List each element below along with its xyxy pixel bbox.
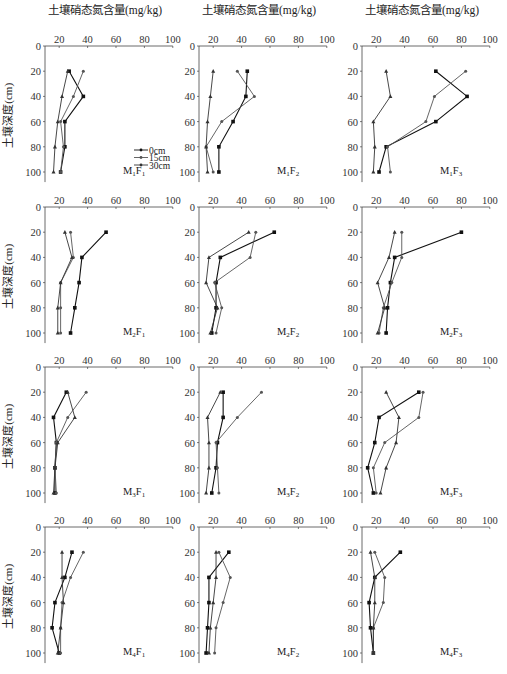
data-point xyxy=(66,416,69,419)
y-tick-label: 0 xyxy=(36,202,41,213)
panel-label: M2F1 xyxy=(123,326,146,339)
data-point xyxy=(85,391,88,394)
y-tick-label: 80 xyxy=(185,303,196,314)
y-tick-label: 100 xyxy=(25,648,41,659)
data-point xyxy=(63,230,67,234)
y-tick-label: 20 xyxy=(31,387,42,398)
data-point xyxy=(217,145,221,149)
y-tick-label: 20 xyxy=(185,547,196,558)
x-tick-label: 20 xyxy=(371,195,382,206)
x-axis-title: 土壤硝态氮含量(mg/kg) xyxy=(202,3,316,17)
data-point xyxy=(59,332,62,335)
data-point xyxy=(254,231,257,234)
panel-label: M3F2 xyxy=(277,486,300,499)
data-point xyxy=(60,94,64,98)
y-tick-label: 0 xyxy=(353,41,358,52)
y-tick-label: 100 xyxy=(179,488,195,499)
data-point xyxy=(211,69,215,73)
x-tick-label: 40 xyxy=(82,355,93,366)
x-tick-label: 100 xyxy=(482,355,498,366)
series-line-0cm xyxy=(212,232,274,333)
data-point xyxy=(373,551,376,554)
data-point xyxy=(104,230,108,234)
y-tick-label: 60 xyxy=(31,438,42,449)
panel-m4f2: 20406080100020406080100M4F2 xyxy=(179,515,334,663)
data-point xyxy=(371,170,375,174)
data-point xyxy=(393,256,397,260)
y-tick-label: 100 xyxy=(25,167,41,178)
data-point xyxy=(50,626,54,630)
panel-label: M3F1 xyxy=(123,486,146,499)
y-tick-label: 80 xyxy=(31,463,42,474)
data-point xyxy=(377,170,381,174)
data-point xyxy=(387,255,391,259)
y-tick-label: 100 xyxy=(25,328,41,339)
y-tick-label: 20 xyxy=(348,66,359,77)
y-tick-label: 100 xyxy=(179,328,195,339)
y-axis-title: 土壤深度(cm) xyxy=(1,244,15,309)
data-point xyxy=(369,550,373,554)
series-line-0cm xyxy=(379,71,467,172)
data-point xyxy=(417,416,420,419)
data-point xyxy=(69,331,73,335)
data-point xyxy=(69,576,72,579)
data-point xyxy=(367,601,371,605)
data-point xyxy=(390,281,393,284)
data-point xyxy=(77,281,81,285)
y-tick-label: 20 xyxy=(31,547,42,558)
data-point xyxy=(53,601,57,605)
data-point xyxy=(231,120,235,124)
data-point xyxy=(215,441,218,444)
x-tick-label: 80 xyxy=(139,195,150,206)
panel-label: M4F3 xyxy=(440,646,463,659)
data-point xyxy=(62,145,65,148)
panel-m1f1: 20406080100020406080100土壤深度(cm)M1F10cm15… xyxy=(1,34,181,182)
data-point xyxy=(272,230,276,234)
data-point xyxy=(59,120,62,123)
data-point xyxy=(229,576,232,579)
x-tick-label: 60 xyxy=(265,195,276,206)
data-point xyxy=(422,391,425,394)
y-tick-label: 40 xyxy=(348,412,359,423)
data-point xyxy=(215,332,218,335)
y-tick-label: 40 xyxy=(31,252,42,263)
data-point xyxy=(399,550,403,554)
data-point xyxy=(260,391,263,394)
x-axis-title: 土壤硝态氮含量(mg/kg) xyxy=(365,3,479,17)
x-tick-label: 80 xyxy=(456,355,467,366)
data-point xyxy=(82,551,85,554)
series-line-15cm xyxy=(61,232,74,333)
y-axis-title: 土壤深度(cm) xyxy=(1,564,15,629)
data-point xyxy=(214,575,218,579)
x-tick-label: 20 xyxy=(54,195,65,206)
data-point xyxy=(382,601,385,604)
x-tick-label: 40 xyxy=(82,34,93,45)
data-point xyxy=(377,416,381,420)
data-point xyxy=(52,416,56,420)
data-point xyxy=(59,171,62,174)
x-tick-label: 60 xyxy=(265,355,276,366)
data-point xyxy=(386,145,389,148)
panel-label: M4F2 xyxy=(277,646,300,659)
y-tick-label: 60 xyxy=(31,117,42,128)
data-point xyxy=(217,551,220,554)
data-point xyxy=(204,491,208,495)
data-point xyxy=(215,626,218,629)
data-point xyxy=(373,441,377,445)
y-tick-label: 40 xyxy=(348,252,359,263)
y-tick-label: 60 xyxy=(185,278,196,289)
x-tick-label: 60 xyxy=(111,34,122,45)
y-tick-label: 100 xyxy=(342,648,358,659)
data-point xyxy=(434,120,438,124)
x-tick-label: 100 xyxy=(319,34,335,45)
x-tick-label: 40 xyxy=(236,195,247,206)
data-point xyxy=(245,69,249,73)
x-tick-label: 40 xyxy=(82,195,93,206)
y-tick-label: 100 xyxy=(25,488,41,499)
x-tick-label: 80 xyxy=(293,515,304,526)
x-tick-label: 60 xyxy=(428,355,439,366)
panel-label: M1F2 xyxy=(277,165,300,178)
data-point xyxy=(244,95,248,99)
data-point xyxy=(208,94,212,98)
y-tick-label: 0 xyxy=(36,362,41,373)
